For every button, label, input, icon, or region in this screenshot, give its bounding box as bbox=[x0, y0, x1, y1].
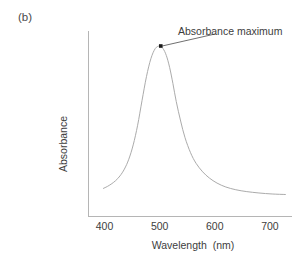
x-tick-label-500: 500 bbox=[140, 221, 180, 232]
x-tick-label-400: 400 bbox=[85, 221, 125, 232]
absorbance-spectrum-figure: (b) Absorbance maximum Absorbance Wavele… bbox=[0, 0, 308, 263]
x-axis-title: Wavelength (nm) bbox=[128, 240, 258, 251]
x-tick-label-600: 600 bbox=[195, 221, 235, 232]
x-tick-label-700: 700 bbox=[250, 221, 290, 232]
annotation-label: Absorbance maximum bbox=[178, 26, 282, 37]
absorbance-maximum-marker bbox=[159, 44, 163, 48]
absorbance-curve bbox=[103, 46, 285, 195]
y-axis-title: Absorbance bbox=[58, 96, 69, 192]
